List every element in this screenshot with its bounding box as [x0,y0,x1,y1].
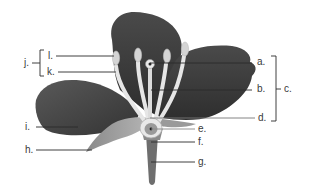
label-h: h. [25,145,33,155]
label-j: j. [24,58,29,68]
label-f: f. [198,137,204,147]
flower-illustration [0,0,311,191]
label-i: i. [25,122,30,132]
label-k: k. [47,67,55,77]
flower-diagram: a. b. c. d. e. f. g. h. i. j. k. l. [0,0,311,191]
label-l: l. [48,51,53,61]
label-e: e. [198,124,206,134]
label-d: d. [258,113,266,123]
label-g: g. [198,157,206,167]
label-a: a. [257,57,265,67]
label-c: c. [284,84,292,94]
label-b: b. [257,84,265,94]
